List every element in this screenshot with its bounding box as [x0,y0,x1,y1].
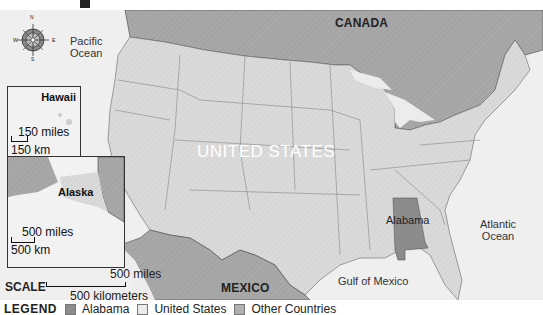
alaska-inset: Alaska 500 miles 500 km [7,156,125,268]
legend-swatch-united-states [137,304,148,315]
alaska-scale-km: 500 km [11,243,50,257]
main-scale-bar [46,282,126,287]
title-fragment [80,0,90,8]
compass-s: S [31,56,34,62]
legend-label-united-states: United States [154,302,226,315]
scale-km-label: 500 kilometers [70,289,148,300]
gulf-of-mexico-label: Gulf of Mexico [338,275,408,287]
compass-e: E [52,37,55,43]
legend-title: LEGEND [4,302,57,315]
us-map: N S E W Pacific Ocean Atlantic Ocean Gul… [0,10,543,300]
united-states-label: UNITED STATES [197,142,335,162]
pacific-ocean-label: Pacific Ocean [70,35,102,59]
legend: LEGEND Alabama United States Other Count… [4,302,336,315]
hawaii-inset: Hawaii 150 miles 150 km [7,86,81,162]
hawaii-title: Hawaii [41,91,76,103]
scale-miles-label: 500 miles [110,267,161,281]
legend-swatch-alabama [65,304,76,315]
mexico-label: MEXICO [221,281,270,295]
compass-w: W [13,37,18,43]
scale-label: SCALE [5,280,46,294]
compass-n: N [30,14,34,20]
header-strip [0,0,543,10]
hawaii-scale-bar [11,136,28,142]
legend-label-alabama: Alabama [82,302,129,315]
alabama-label: Alabama [386,214,429,226]
hawaii-scale-km: 150 km [11,143,50,157]
canada-label: CANADA [335,16,388,30]
atlantic-ocean-label: Atlantic Ocean [480,218,516,242]
legend-label-other-countries: Other Countries [251,302,336,315]
hawaii-island [58,113,62,117]
legend-swatch-other-countries [234,304,245,315]
alaska-title: Alaska [58,186,93,198]
